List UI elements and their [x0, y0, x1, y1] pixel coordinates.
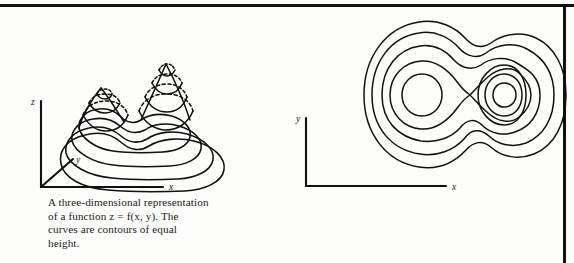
right-peak-collar-front	[139, 111, 193, 130]
axis-label-y: y	[295, 114, 301, 124]
two-dimensional-contour-figure: y x	[287, 0, 574, 200]
contour-ring-5-left	[402, 74, 442, 116]
caption-line: curves are contours of equal	[48, 223, 248, 237]
caption-line: of a function z = f(x, y). The	[48, 210, 248, 224]
figure-page: z y x A three-dimensional representation…	[0, 0, 574, 263]
contour-level-1	[60, 133, 224, 191]
caption-line: height.	[48, 237, 248, 251]
contour-ring-7-right	[493, 83, 516, 107]
axis-label-x: x	[451, 182, 457, 192]
axis-label-y: y	[75, 155, 81, 165]
axis-label-x: x	[168, 182, 174, 192]
right-peak-ring-2-front	[145, 97, 187, 112]
axis-group-3d	[41, 101, 163, 187]
y-axis	[41, 159, 73, 187]
panel-two-dimensional-contour: y x A two-dimensional contour graph of t…	[287, 0, 574, 263]
axis-group-2d	[306, 118, 446, 186]
caption-three-dimensional: A three-dimensional representation of a …	[48, 196, 248, 250]
panel-three-dimensional-surface: z y x A three-dimensional representation…	[0, 0, 287, 263]
left-peak-flank-right	[101, 88, 124, 122]
three-dimensional-surface-figure: z y x	[0, 0, 287, 200]
contour-level-4	[79, 109, 190, 153]
caption-line: A three-dimensional representation	[48, 196, 248, 210]
axis-label-z: z	[30, 97, 35, 107]
